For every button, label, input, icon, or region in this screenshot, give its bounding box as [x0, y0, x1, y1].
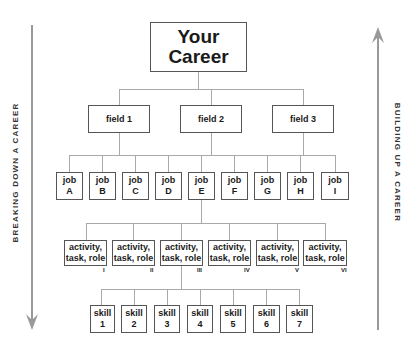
down-arrowhead-icon [26, 314, 38, 330]
up-arrow-shaft [377, 32, 379, 330]
building-up-label: BUILDING UP A CAREER [393, 93, 402, 233]
career-breakdown-diagram: Your Career field 1 field 2 field 3 jobA… [0, 0, 410, 353]
breaking-down-label: BREAKING DOWN A CAREER [11, 103, 20, 243]
arrowheads [0, 0, 410, 353]
